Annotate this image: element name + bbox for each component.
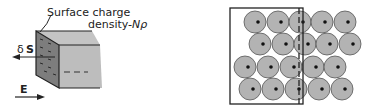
E-arrow-head-icon	[37, 94, 45, 100]
ion-circle	[339, 33, 361, 55]
ion-center-dot	[292, 65, 296, 69]
ion-circle	[308, 78, 330, 100]
ion-center-dot	[274, 87, 278, 91]
ion-center-dot	[251, 87, 255, 91]
ion-center-dot	[306, 42, 310, 46]
ion-center-dot	[323, 20, 327, 24]
ion-circle	[244, 11, 266, 33]
ion-center-dot	[336, 65, 340, 69]
ion-circle	[316, 33, 338, 55]
ion-center-dot	[261, 42, 265, 46]
ion-center-dot	[328, 42, 332, 46]
ion-lattice-figure	[234, 11, 361, 100]
ion-center-dot	[246, 65, 250, 69]
ion-center-dot	[284, 42, 288, 46]
ion-circle	[324, 56, 346, 78]
ion-center-dot	[314, 65, 318, 69]
caption-symbol: -Nρ	[128, 18, 147, 31]
ion-circle	[289, 11, 311, 33]
ion-circle	[311, 11, 333, 33]
ion-circle	[249, 33, 271, 55]
ion-circle	[294, 33, 316, 55]
ion-circle	[267, 11, 289, 33]
ion-circle	[331, 78, 353, 100]
diagram-canvas: Surface charge density -Nρ δ S E	[0, 0, 372, 112]
slab-side-face	[59, 45, 102, 88]
ion-circle	[234, 56, 256, 78]
ion-circle	[257, 56, 279, 78]
ion-center-dot	[343, 87, 347, 91]
ion-center-dot	[346, 20, 350, 24]
ion-circle	[334, 11, 356, 33]
ion-circle	[239, 78, 261, 100]
dS-label-prefix: δ	[17, 43, 24, 56]
ion-circle	[285, 78, 307, 100]
ion-center-dot	[269, 65, 273, 69]
ion-center-dot	[351, 42, 355, 46]
charged-slab-figure: Surface charge density -Nρ δ S E	[12, 6, 147, 100]
ion-center-dot	[320, 87, 324, 91]
caption-line-2: density	[88, 18, 129, 31]
ion-circle	[262, 78, 284, 100]
E-label: E	[20, 83, 28, 96]
ion-center-dot	[279, 20, 283, 24]
ion-center-dot	[256, 20, 260, 24]
ion-circle	[272, 33, 294, 55]
dS-label: S	[26, 43, 34, 56]
ion-circle	[302, 56, 324, 78]
